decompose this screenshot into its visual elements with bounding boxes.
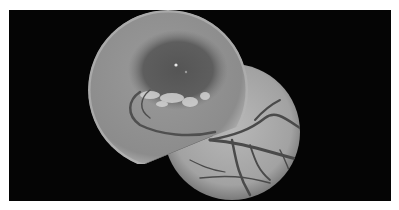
fundus-montage-panel xyxy=(9,10,391,201)
fundus-montage-image xyxy=(9,10,391,201)
foveal-reflex xyxy=(174,63,177,66)
